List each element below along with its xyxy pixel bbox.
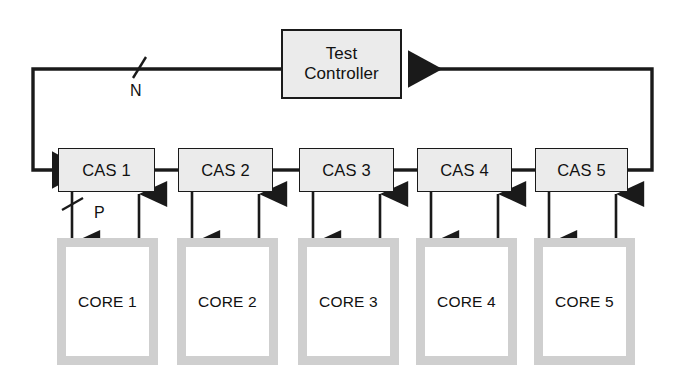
test-controller-box[interactable]: Test Controller <box>281 29 402 99</box>
core-block-5[interactable]: CORE 5 <box>534 238 635 365</box>
bus-tick-n <box>133 57 146 78</box>
core-block-4[interactable]: CORE 4 <box>416 238 517 365</box>
cas-block-1-label: CAS 1 <box>82 161 131 180</box>
core-block-2[interactable]: CORE 2 <box>177 238 278 365</box>
core-block-4-label: CORE 4 <box>437 293 496 311</box>
cas-block-5[interactable]: CAS 5 <box>535 148 628 192</box>
cas-block-1[interactable]: CAS 1 <box>58 148 155 192</box>
cas-block-4[interactable]: CAS 4 <box>417 148 512 192</box>
cas-block-2[interactable]: CAS 2 <box>178 148 273 192</box>
cas-core-links <box>62 192 616 243</box>
core-block-3[interactable]: CORE 3 <box>298 238 399 365</box>
core-block-1[interactable]: CORE 1 <box>57 238 158 365</box>
test-controller-label-line2: Controller <box>304 64 379 84</box>
cas-block-3-label: CAS 3 <box>322 161 371 180</box>
core-block-1-label: CORE 1 <box>78 293 137 311</box>
bus-tick-p <box>62 198 83 210</box>
core-block-5-label: CORE 5 <box>555 293 614 311</box>
cas-block-3[interactable]: CAS 3 <box>299 148 394 192</box>
core-block-2-label: CORE 2 <box>198 293 257 311</box>
bus-width-label-p: P <box>94 205 105 221</box>
bus-width-label-n: N <box>130 83 142 99</box>
test-controller-label-line1: Test <box>304 44 379 64</box>
core-block-3-label: CORE 3 <box>319 293 378 311</box>
cas-block-5-label: CAS 5 <box>557 161 606 180</box>
block-diagram: Test Controller CAS 1 CAS 2 CAS 3 CAS 4 … <box>0 0 688 389</box>
cas-block-2-label: CAS 2 <box>201 161 250 180</box>
cas-block-4-label: CAS 4 <box>440 161 489 180</box>
